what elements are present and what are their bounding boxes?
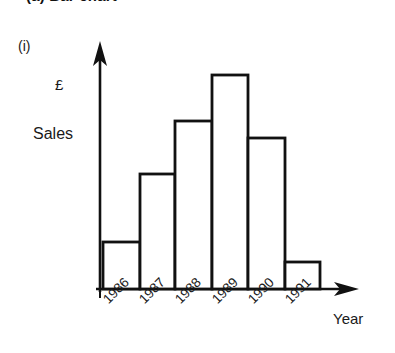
bar-1987 <box>140 174 175 289</box>
bar-1989 <box>212 75 248 289</box>
bar-chart-figure: (a) Bar chart (i) £ Sales Year 1986 1987… <box>0 0 395 353</box>
chart-plot-area <box>0 0 395 353</box>
bar-group <box>103 75 320 289</box>
bar-1988 <box>175 121 212 289</box>
bar-1990 <box>248 138 285 289</box>
